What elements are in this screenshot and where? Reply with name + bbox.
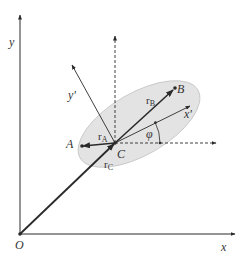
point-b-label: B: [177, 82, 185, 96]
point-a: [80, 144, 84, 148]
origin-point: [18, 232, 22, 236]
point-a-label: A: [65, 137, 74, 151]
body-ellipse: [65, 63, 214, 185]
x-axis-label: x: [220, 240, 227, 254]
x-prime-label: x': [183, 107, 192, 121]
y-axis-label: y: [8, 35, 15, 49]
y-prime-label: y': [67, 88, 76, 102]
angle-phi-label: φ: [146, 127, 153, 141]
angle-arc-start-dot: [159, 142, 162, 145]
point-c: [113, 141, 117, 145]
vector-r-c: [20, 144, 114, 234]
angle-arc-end-dot: [154, 121, 157, 124]
ellipse-coordinate-diagram: O x y x' y' A B C φ rA rB rC: [0, 0, 245, 262]
point-c-label: C: [117, 147, 126, 161]
origin-label: O: [15, 238, 24, 252]
